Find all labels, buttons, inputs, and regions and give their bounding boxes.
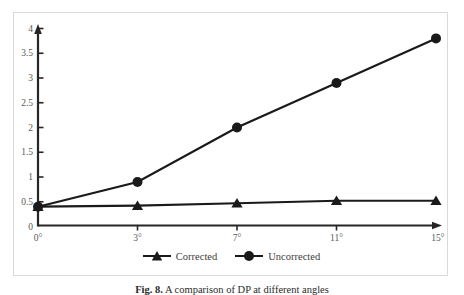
x-tick-label: 11°	[330, 233, 343, 243]
x-tick-label: 0°	[34, 233, 43, 243]
figure-caption-text: A comparison of DP at different angles	[163, 284, 329, 295]
triangle-marker-icon	[143, 250, 171, 262]
y-tick-label: 0	[28, 222, 33, 232]
y-tick-label: 3	[28, 73, 33, 83]
legend-item-uncorrected: Uncorrected	[235, 250, 320, 262]
x-tick-label: 15°	[431, 233, 445, 243]
y-tick-label: 1	[28, 172, 33, 182]
page: { "figure": { "caption_prefix": "Fig. 8.…	[0, 0, 464, 295]
x-tick-label: 7°	[233, 233, 242, 243]
y-tick-label: 4	[28, 24, 33, 34]
chart-legend: Corrected Uncorrected	[14, 250, 449, 262]
legend-item-corrected: Corrected	[143, 250, 217, 262]
data-point-circle	[232, 123, 242, 133]
y-tick-label: 0.5	[21, 197, 33, 207]
figure-caption-number: Fig. 8.	[135, 284, 163, 295]
y-tick-label: 2.5	[21, 98, 33, 108]
data-point-circle	[133, 177, 143, 187]
y-tick-label: 2	[28, 123, 33, 133]
legend-label-corrected: Corrected	[176, 251, 217, 262]
x-tick-label: 3°	[133, 233, 142, 243]
data-point-circle	[33, 202, 43, 212]
x-axis-arrowhead	[432, 222, 442, 230]
y-tick-label: 3.5	[21, 48, 33, 58]
legend-label-uncorrected: Uncorrected	[268, 251, 320, 262]
circle-marker-icon	[235, 250, 263, 262]
y-tick-label: 1.5	[21, 147, 33, 157]
figure-caption: Fig. 8. A comparison of DP at different …	[0, 284, 464, 295]
data-point-circle	[431, 33, 441, 43]
data-point-circle	[332, 78, 342, 88]
